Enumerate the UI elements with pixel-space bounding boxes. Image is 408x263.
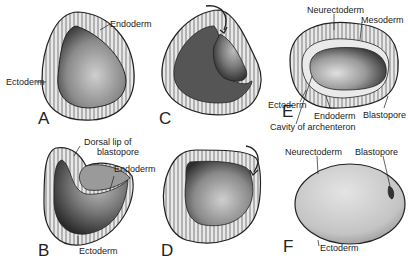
label-e-ectoderm: Ectoderm	[268, 100, 307, 110]
label-b-endoderm: Endoderm	[114, 164, 156, 174]
panel-c-embryo	[162, 6, 261, 115]
label-e-blastopore: Blastopore	[363, 110, 406, 120]
label-a-ectoderm: Ectoderm	[6, 77, 45, 87]
label-a-endoderm: Endoderm	[110, 19, 152, 29]
panel-d-embryo	[163, 146, 260, 243]
label-f-neurectoderm: Neurectoderm	[285, 147, 342, 157]
panel-e-embryo	[290, 23, 398, 109]
label-f-blastopore: Blastopore	[355, 147, 398, 157]
label-e-neurectoderm: Neurectoderm	[307, 5, 364, 15]
label-f-ectoderm: Ectoderm	[320, 243, 359, 253]
panel-label-c: C	[159, 110, 171, 128]
label-b-ectoderm: Ectoderm	[79, 246, 118, 256]
label-e-cavity-of-archenteron: Cavity of archenteron	[270, 122, 356, 132]
panel-label-f: F	[283, 238, 293, 256]
label-e-mesoderm: Mesoderm	[361, 15, 404, 25]
panel-label-d: D	[161, 242, 173, 260]
panel-label-a: A	[38, 110, 49, 128]
gastrulation-diagram: A B C D E F Endoderm Ectoderm Dorsal lip…	[0, 0, 408, 263]
panel-label-b: B	[38, 242, 49, 260]
label-b-dorsal-lip-line2: blastopore	[97, 147, 139, 157]
panel-f-egg	[295, 164, 405, 244]
label-e-endoderm: Endoderm	[314, 111, 356, 121]
label-b-dorsal-lip-line1: Dorsal lip of	[84, 137, 132, 147]
panel-b-embryo	[44, 148, 133, 245]
